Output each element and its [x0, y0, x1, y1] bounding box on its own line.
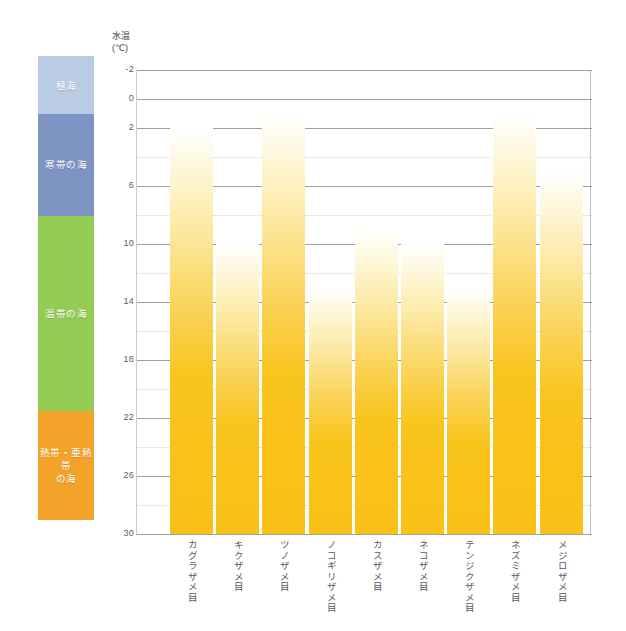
x-axis-tick-label: メジロザメ目 [556, 540, 567, 603]
zone-band-0: 極海 [38, 56, 94, 114]
bar [447, 288, 490, 535]
x-axis-line [136, 534, 592, 535]
x-axis-tick-label: ネコザメ目 [418, 540, 429, 593]
bar-fill [309, 288, 352, 535]
y-axis-tick-label: 30 [104, 528, 134, 538]
y-axis-tick-label: 6 [104, 180, 134, 190]
zone-band-label: 温帯の海 [45, 307, 87, 320]
x-axis-tick-label: ネズミザメ目 [510, 540, 521, 603]
zone-band-label: 熱帯・亜熱帯 の海 [38, 446, 94, 485]
bar [170, 128, 213, 534]
bar-fill [170, 128, 213, 534]
bar-fill [540, 172, 583, 535]
gridline-major [137, 70, 592, 71]
y-axis-tick-label: 22 [104, 412, 134, 422]
y-axis-tick-label: 2 [104, 122, 134, 132]
bar-fill [216, 244, 259, 534]
zone-band-label: 極海 [56, 79, 77, 92]
y-axis-tick-label: 10 [104, 238, 134, 248]
bar [355, 230, 398, 535]
zone-band-1: 寒帯の海 [38, 114, 94, 216]
bar-fill [262, 114, 305, 535]
bar [401, 244, 444, 534]
x-axis-tick-label: テンジクザメ目 [464, 540, 475, 614]
x-axis-tick-label: カグラザメ目 [187, 540, 198, 603]
bar [493, 114, 536, 535]
bar [540, 172, 583, 535]
y-axis-tick-label: 26 [104, 470, 134, 480]
x-axis-tick-label: カスザメ目 [371, 540, 382, 593]
zone-band-2: 温帯の海 [38, 216, 94, 412]
y-axis-tick-label: 14 [104, 296, 134, 306]
x-axis-tick-label: ノコギリザメ目 [325, 540, 336, 614]
y-axis-tick-label: 0 [104, 93, 134, 103]
bar [309, 288, 352, 535]
bar [262, 114, 305, 535]
bar-fill [447, 288, 490, 535]
chart-page: 極海寒帯の海温帯の海熱帯・亜熱帯 の海 水温 (℃) -202610141822… [0, 0, 626, 631]
bar-fill [493, 114, 536, 535]
bar-fill [355, 230, 398, 535]
x-axis-tick-label: ツノザメ目 [279, 540, 290, 593]
zone-band-3: 熱帯・亜熱帯 の海 [38, 411, 94, 520]
y-axis-tick-label: -2 [104, 64, 134, 74]
gridline-major [137, 99, 592, 100]
x-axis-tick-label: キクザメ目 [233, 540, 244, 593]
y-axis-tick-label: 18 [104, 354, 134, 364]
zone-band-legend: 極海寒帯の海温帯の海熱帯・亜熱帯 の海 [38, 63, 94, 535]
y-axis-title: 水温 (℃) [112, 31, 130, 54]
bar [216, 244, 259, 534]
bar-fill [401, 244, 444, 534]
zone-band-label: 寒帯の海 [45, 158, 87, 171]
